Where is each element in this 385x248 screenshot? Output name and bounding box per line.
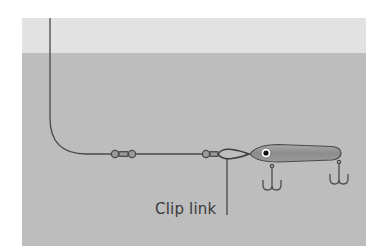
treble-hook-icon-rear [330,160,348,184]
treble-hook-icon-front [263,164,281,190]
clip-link-label: Clip link [155,200,216,218]
fishing-line [50,18,112,154]
swivel-icon-2 [202,150,218,157]
swivel-icon-1 [111,150,135,157]
clip-link-icon [218,149,249,159]
